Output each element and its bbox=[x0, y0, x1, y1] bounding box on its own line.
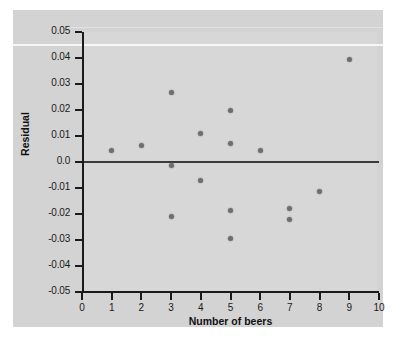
y-axis-tick bbox=[75, 109, 82, 111]
x-axis-tick-label: 10 bbox=[368, 302, 390, 313]
x-axis-tick bbox=[378, 293, 380, 300]
x-axis-tick-label: 2 bbox=[130, 302, 152, 313]
x-axis-tick bbox=[348, 293, 350, 300]
y-axis-tick bbox=[75, 213, 82, 215]
x-axis-tick-label: 5 bbox=[220, 302, 242, 313]
x-axis-tick-label: 3 bbox=[160, 302, 182, 313]
x-axis-tick bbox=[259, 293, 261, 300]
x-axis-tick bbox=[200, 293, 202, 300]
x-axis-tick-label: 6 bbox=[249, 302, 271, 313]
y-axis-tick-label: 0.03 bbox=[24, 77, 70, 88]
scatter-point bbox=[109, 148, 114, 153]
scatter-point bbox=[228, 236, 233, 241]
x-axis-tick bbox=[170, 293, 172, 300]
scatter-point bbox=[347, 57, 352, 62]
scan-artifact-line bbox=[13, 44, 383, 46]
x-axis-tick-label: 0 bbox=[71, 302, 93, 313]
y-axis-tick-label: -0.03 bbox=[24, 233, 70, 244]
scatter-point bbox=[228, 108, 233, 113]
x-axis-tick bbox=[111, 293, 113, 300]
x-axis-tick bbox=[81, 293, 83, 300]
x-axis-tick-label: 7 bbox=[279, 302, 301, 313]
residual-plot-figure: 0.050.040.030.020.010.0-0.01-0.02-0.03-0… bbox=[13, 10, 383, 327]
x-axis-tick-label: 9 bbox=[338, 302, 360, 313]
y-axis-title: Residual bbox=[19, 94, 31, 174]
y-axis-tick bbox=[75, 161, 82, 163]
x-axis-tick-label: 4 bbox=[190, 302, 212, 313]
y-axis-tick-label: 0.04 bbox=[24, 51, 70, 62]
y-axis-tick bbox=[75, 135, 82, 137]
x-axis-tick bbox=[289, 293, 291, 300]
y-axis-tick-label: -0.05 bbox=[24, 285, 70, 296]
y-axis-tick bbox=[75, 187, 82, 189]
x-axis-tick bbox=[230, 293, 232, 300]
y-axis-tick bbox=[75, 57, 82, 59]
scatter-point bbox=[139, 143, 144, 148]
x-axis-tick-label: 8 bbox=[309, 302, 331, 313]
y-axis-tick-label: 0.05 bbox=[24, 25, 70, 36]
scatter-point bbox=[169, 214, 174, 219]
y-axis-tick bbox=[75, 31, 82, 33]
scan-artifact-line-upper bbox=[68, 27, 383, 28]
y-axis-tick-label: -0.04 bbox=[24, 259, 70, 270]
y-axis-tick bbox=[75, 265, 82, 267]
y-axis-tick-label: -0.01 bbox=[24, 181, 70, 192]
y-axis-tick bbox=[75, 239, 82, 241]
zero-reference-line bbox=[84, 161, 379, 163]
x-axis-tick bbox=[140, 293, 142, 300]
scatter-point bbox=[169, 90, 174, 95]
x-axis-title: Number of beers bbox=[82, 315, 379, 327]
x-axis-tick-label: 1 bbox=[101, 302, 123, 313]
y-axis-tick bbox=[75, 83, 82, 85]
y-axis-tick-label: -0.02 bbox=[24, 207, 70, 218]
x-axis-tick bbox=[319, 293, 321, 300]
